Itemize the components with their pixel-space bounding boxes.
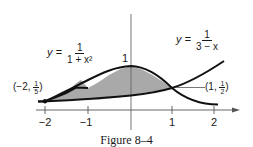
point-neg2 bbox=[43, 99, 47, 103]
curve1-lhs: y = bbox=[47, 46, 62, 58]
x-axis-arrow-icon bbox=[232, 108, 240, 113]
point-right-label: (1, 12) bbox=[205, 80, 229, 95]
curve1-label: y = 1 1 + x² bbox=[47, 42, 94, 65]
point-right-suffix: ) bbox=[225, 81, 228, 92]
curve2-denominator: 3 − x bbox=[194, 41, 220, 52]
point-left-prefix: (−2, bbox=[13, 81, 33, 92]
tick-label-neg1: −1 bbox=[80, 116, 93, 128]
curve1-fraction: 1 1 + x² bbox=[65, 42, 94, 65]
tick-label-neg2: −2 bbox=[39, 116, 52, 128]
tick-label-1: 1 bbox=[169, 116, 175, 128]
curve2-lhs: y = bbox=[176, 33, 191, 45]
point-left-suffix: ) bbox=[39, 81, 42, 92]
tick-label-2: 2 bbox=[211, 116, 217, 128]
curve2-fraction: 1 3 − x bbox=[194, 29, 220, 52]
curve2-label: y = 1 3 − x bbox=[176, 29, 220, 52]
peak-label: 1 bbox=[122, 53, 128, 64]
point-right-prefix: (1, bbox=[205, 81, 219, 92]
curve1-numerator: 1 bbox=[75, 42, 85, 54]
figure-caption: Figure 8–4 bbox=[0, 133, 253, 147]
point-left-label: (−2, 15) bbox=[13, 80, 43, 95]
curve2-numerator: 1 bbox=[202, 29, 212, 41]
curve1-denominator: 1 + x² bbox=[65, 54, 94, 65]
